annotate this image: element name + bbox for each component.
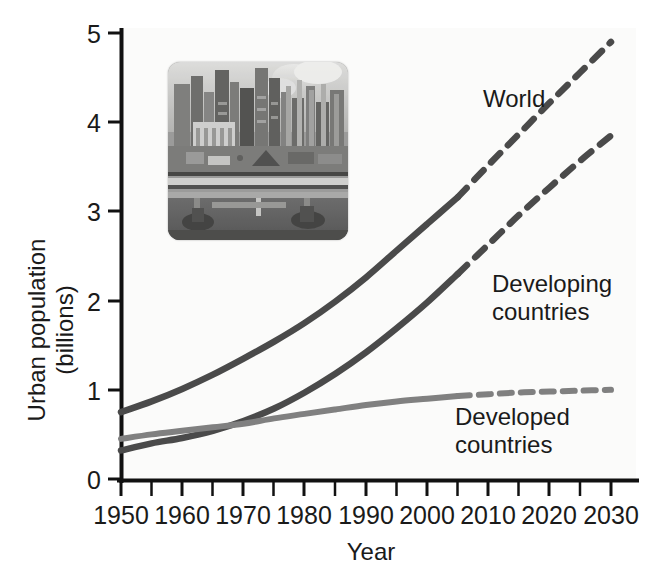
cityscape-photo-graphic xyxy=(168,62,348,240)
x-axis: 1950 1960 1970 1980 1990 2000 2010 2020 … xyxy=(93,481,639,566)
series-label-developed-line1: Developed xyxy=(455,403,570,430)
x-tick-label-2000: 2000 xyxy=(399,501,455,529)
y-tick-label-4: 4 xyxy=(87,109,101,137)
y-tick-label-1: 1 xyxy=(87,377,101,405)
series-label-developing-line2: countries xyxy=(492,298,589,325)
series-label-developing-line1: Developing xyxy=(492,270,612,297)
x-axis-title: Year xyxy=(347,538,396,565)
y-axis-title-line2: (billions) xyxy=(51,285,78,374)
x-tick-label-2020: 2020 xyxy=(521,501,577,529)
x-tick-label-1970: 1970 xyxy=(215,501,271,529)
y-tick-label-0: 0 xyxy=(87,466,101,494)
x-tick-label-1960: 1960 xyxy=(154,501,210,529)
urban-cityscape-photo xyxy=(168,62,348,240)
y-tick-label-5: 5 xyxy=(87,20,101,48)
series-label-developed-line2: countries xyxy=(455,431,552,458)
x-tick-label-1950: 1950 xyxy=(93,501,149,529)
series-label-world: World xyxy=(483,85,545,112)
x-tick-label-2030: 2030 xyxy=(583,501,639,529)
y-tick-label-2: 2 xyxy=(87,288,101,316)
y-tick-label-3: 3 xyxy=(87,198,101,226)
photo-grain xyxy=(168,62,348,240)
x-tick-label-2010: 2010 xyxy=(460,501,516,529)
x-tick-label-1980: 1980 xyxy=(276,501,332,529)
x-tick-label-1990: 1990 xyxy=(338,501,394,529)
chart-figure: 5 4 3 2 1 0 Urban population (billions) xyxy=(0,0,662,572)
y-axis-title-line1: Urban population xyxy=(23,239,50,422)
y-axis: 5 4 3 2 1 0 Urban population (billions) xyxy=(23,20,122,494)
